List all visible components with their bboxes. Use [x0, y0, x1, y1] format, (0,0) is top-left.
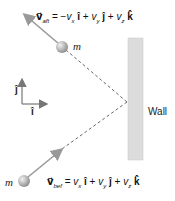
velocity-before-equation: v⃗bef = vx î + vy ĵ + vz k̂: [47, 176, 140, 189]
velocity-before-arrow: [28, 150, 61, 177]
wall-collision-diagram: v⃗aft = −vx î + vy ĵ + vz k̂ v⃗bef = vx …: [0, 0, 175, 201]
velocity-after-equation: v⃗aft = −vx î + vy ĵ + vz k̂: [36, 11, 133, 24]
mass-ball-before: [18, 175, 30, 187]
diagram-graphics: [0, 0, 175, 201]
wall: [128, 38, 143, 160]
mass-label-after: m: [73, 40, 81, 52]
wall-label: Wall: [148, 106, 167, 117]
i-hat-label: î: [31, 106, 34, 117]
trajectory-before-dashed: [62, 102, 127, 149]
trajectory-after-dashed: [66, 50, 127, 102]
mass-label-before: m: [5, 176, 13, 188]
j-hat-label: ĵ: [15, 84, 18, 95]
mass-ball-after: [56, 41, 68, 53]
